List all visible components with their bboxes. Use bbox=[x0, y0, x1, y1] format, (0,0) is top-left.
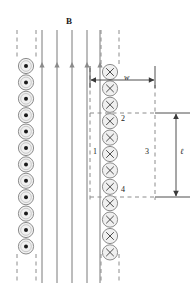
current-in-symbol bbox=[102, 196, 117, 211]
current-out-symbol bbox=[18, 108, 33, 123]
field-arrow-icon bbox=[39, 62, 44, 68]
dot-icon bbox=[24, 113, 28, 117]
current-in-symbol bbox=[102, 163, 117, 178]
current-in-symbol bbox=[102, 228, 117, 243]
current-in-symbol bbox=[102, 245, 117, 260]
field-arrow-icon bbox=[54, 62, 59, 68]
current-out-symbol bbox=[18, 140, 33, 155]
dot-icon bbox=[24, 212, 28, 216]
dot-icon bbox=[24, 244, 28, 248]
current-in-symbol bbox=[102, 97, 117, 112]
current-in-symbol bbox=[102, 130, 117, 145]
dot-icon bbox=[24, 130, 28, 134]
field-arrow-icon bbox=[97, 62, 102, 68]
current-in-symbol bbox=[102, 64, 117, 79]
loop-segment-1-label: 1 bbox=[93, 148, 97, 156]
current-in-symbol bbox=[102, 212, 117, 227]
length-dimension-label: ℓ bbox=[180, 148, 183, 156]
current-out-symbol bbox=[18, 206, 33, 221]
current-out-symbol bbox=[18, 222, 33, 237]
current-in-symbol bbox=[102, 81, 117, 96]
dot-icon bbox=[24, 179, 28, 183]
current-out-symbol bbox=[18, 58, 33, 73]
dot-icon bbox=[24, 195, 28, 199]
field-arrow-icon bbox=[84, 62, 89, 68]
loop-segment-2-label: 2 bbox=[121, 115, 125, 123]
magnetic-field-label: B bbox=[66, 17, 72, 26]
current-out-symbol bbox=[18, 157, 33, 172]
width-dimension-label: w bbox=[124, 74, 129, 82]
current-out-of-page-column bbox=[18, 58, 33, 254]
length-dimension bbox=[155, 113, 190, 197]
dot-icon bbox=[24, 146, 28, 150]
dot-icon bbox=[24, 162, 28, 166]
current-out-symbol bbox=[18, 190, 33, 205]
current-out-symbol bbox=[18, 91, 33, 106]
current-in-symbol bbox=[102, 179, 117, 194]
figure-canvas bbox=[0, 0, 196, 298]
dot-icon bbox=[24, 80, 28, 84]
dot-icon bbox=[24, 97, 28, 101]
dot-icon bbox=[24, 228, 28, 232]
loop-segment-4-label: 4 bbox=[121, 186, 125, 194]
current-into-page-column bbox=[102, 64, 117, 260]
loop-segment-3-label: 3 bbox=[145, 148, 149, 156]
field-arrow-icon bbox=[69, 62, 74, 68]
current-out-symbol bbox=[18, 124, 33, 139]
field-direction-arrowheads bbox=[39, 62, 102, 68]
current-in-symbol bbox=[102, 114, 117, 129]
dot-icon bbox=[24, 64, 28, 68]
current-out-symbol bbox=[18, 173, 33, 188]
current-out-symbol bbox=[18, 239, 33, 254]
current-in-symbol bbox=[102, 146, 117, 161]
current-out-symbol bbox=[18, 75, 33, 90]
physics-figure: B 1 2 3 4 w ℓ bbox=[0, 0, 196, 298]
magnetic-field-lines bbox=[42, 30, 100, 283]
